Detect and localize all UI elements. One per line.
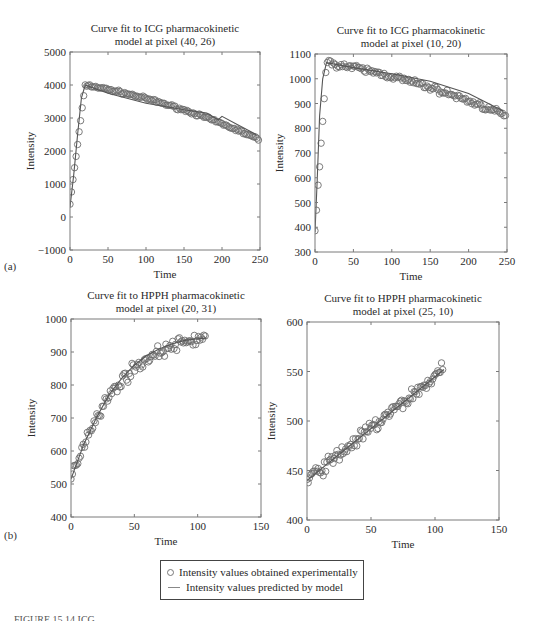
- y-tick-label: 1000: [289, 73, 312, 85]
- y-tick-label: 0: [61, 211, 67, 223]
- y-tick-label: 700: [295, 147, 312, 159]
- y-tick-label: 5000: [44, 46, 67, 58]
- axes-box: [70, 52, 260, 250]
- x-tick-label: 150: [176, 253, 193, 265]
- x-tick-label: 0: [67, 253, 73, 265]
- experimental-points: [67, 82, 262, 208]
- x-axis-label: Time: [154, 268, 177, 280]
- y-tick-label: 400: [287, 514, 304, 526]
- chart-title: Curve fit to HPPH pharmacokinetic: [87, 289, 245, 301]
- y-axis-label: Intensity: [273, 133, 285, 172]
- chart-title: model at pixel (40, 26): [115, 35, 216, 48]
- y-tick-label: 600: [51, 445, 68, 457]
- y-tick-label: 500: [287, 415, 304, 427]
- model-fit-line: [307, 370, 444, 481]
- chart-b1: Curve fit to HPPH pharmacokineticmodel a…: [25, 289, 270, 547]
- y-tick-label: −1000: [38, 244, 67, 256]
- x-tick-label: 150: [422, 255, 439, 267]
- chart-a1: Curve fit to ICG pharmacokineticmodel at…: [24, 22, 269, 280]
- chart-title: Curve fit to ICG pharmacokinetic: [337, 24, 486, 36]
- y-tick-label: 1000: [45, 313, 68, 325]
- y-tick-label: 500: [51, 478, 68, 490]
- chart-title: model at pixel (25, 10): [353, 305, 454, 318]
- legend-label: Intensity values obtained experimentally: [179, 565, 358, 580]
- experimental-points: [304, 360, 446, 486]
- y-tick-label: 600: [287, 316, 304, 328]
- x-axis-label: Time: [400, 270, 423, 282]
- legend: Intensity values obtained experimentally…: [160, 560, 364, 600]
- plots-canvas: Curve fit to ICG pharmacokineticmodel at…: [0, 0, 536, 621]
- legend-item-model: Intensity values predicted by model: [167, 580, 357, 595]
- y-tick-label: 4000: [44, 79, 67, 91]
- panel-label-b: (b): [4, 529, 17, 541]
- circle-marker-icon: [167, 569, 174, 576]
- x-tick-label: 100: [138, 253, 155, 265]
- x-tick-label: 50: [103, 253, 115, 265]
- x-tick-label: 50: [348, 255, 360, 267]
- x-tick-label: 100: [427, 523, 444, 535]
- y-tick-label: 400: [295, 221, 312, 233]
- axes-box: [307, 322, 499, 520]
- line-marker-icon: [167, 587, 181, 588]
- y-axis-label: Intensity: [25, 398, 37, 437]
- x-axis-label: Time: [155, 535, 178, 547]
- x-tick-label: 50: [129, 520, 141, 532]
- figure: Curve fit to ICG pharmacokineticmodel at…: [0, 0, 536, 621]
- y-tick-label: 800: [295, 122, 312, 134]
- chart-title: model at pixel (20, 31): [116, 302, 217, 315]
- x-tick-label: 50: [366, 523, 378, 535]
- x-tick-label: 250: [252, 253, 269, 265]
- y-tick-label: 700: [51, 412, 68, 424]
- chart-a2: Curve fit to ICG pharmacokineticmodel at…: [273, 24, 516, 282]
- x-tick-label: 200: [214, 253, 231, 265]
- y-tick-label: 600: [295, 172, 312, 184]
- legend-label: Intensity values predicted by model: [186, 580, 343, 595]
- x-tick-label: 200: [460, 255, 477, 267]
- y-tick-label: 2000: [44, 145, 67, 157]
- experimental-points: [68, 332, 209, 482]
- chart-title: Curve fit to HPPH pharmacokinetic: [324, 292, 482, 304]
- y-tick-label: 3000: [44, 112, 67, 124]
- y-tick-label: 300: [295, 246, 312, 258]
- y-tick-label: 400: [51, 511, 68, 523]
- y-tick-label: 450: [287, 465, 304, 477]
- model-fit-line: [315, 63, 503, 233]
- y-axis-label: Intensity: [265, 401, 277, 440]
- y-tick-label: 500: [295, 197, 312, 209]
- x-tick-label: 100: [384, 255, 401, 267]
- x-tick-label: 150: [491, 523, 508, 535]
- x-tick-label: 0: [68, 520, 74, 532]
- panel-label-a: (a): [4, 260, 16, 272]
- y-axis-label: Intensity: [24, 131, 36, 170]
- figure-caption: FIGURE 15.14 ICG ...: [14, 614, 105, 621]
- y-tick-label: 550: [287, 366, 304, 378]
- experimental-points: [312, 57, 509, 234]
- chart-b2: Curve fit to HPPH pharmacokineticmodel a…: [265, 292, 508, 550]
- x-tick-label: 100: [189, 520, 206, 532]
- y-tick-label: 800: [51, 379, 68, 391]
- x-tick-label: 0: [312, 255, 318, 267]
- x-tick-label: 150: [253, 520, 270, 532]
- legend-item-experimental: Intensity values obtained experimentally: [167, 565, 357, 580]
- y-tick-label: 1000: [44, 178, 67, 190]
- y-tick-label: 1100: [289, 48, 311, 60]
- x-tick-label: 250: [499, 255, 516, 267]
- chart-title: model at pixel (10, 20): [361, 37, 462, 50]
- x-axis-label: Time: [392, 538, 415, 550]
- chart-title: Curve fit to ICG pharmacokinetic: [91, 22, 240, 34]
- y-tick-label: 900: [295, 98, 312, 110]
- y-tick-label: 900: [51, 346, 68, 358]
- x-tick-label: 0: [304, 523, 310, 535]
